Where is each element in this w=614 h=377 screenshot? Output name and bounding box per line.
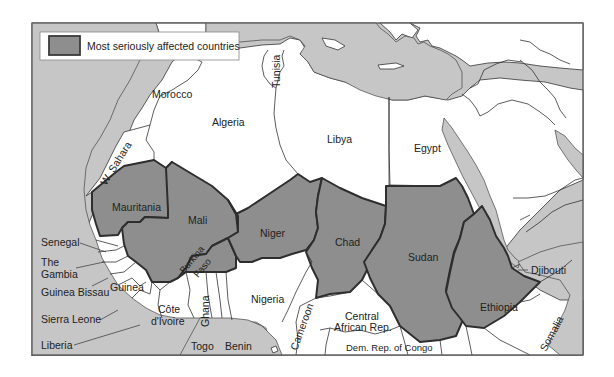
label-niger: Niger: [260, 227, 286, 239]
label-gambia: Gambia: [41, 268, 78, 280]
label-djibouti: Djibouti: [531, 264, 566, 276]
label-guinea: Guinea: [110, 281, 144, 293]
label-ethiopia: Ethiopia: [480, 301, 518, 313]
africa-drought-map: Most seriously affected countries Morocc…: [0, 0, 614, 377]
legend-swatch: [49, 36, 80, 55]
label-liberia: Liberia: [41, 339, 73, 351]
label-senegal: Senegal: [41, 236, 80, 248]
label-benin: Benin: [225, 340, 252, 352]
label-guinea-bissau: Guinea Bissau: [41, 286, 109, 298]
label-chad: Chad: [335, 236, 360, 248]
label-sudan: Sudan: [408, 251, 439, 263]
label-algeria: Algeria: [212, 116, 245, 128]
label-mauritania: Mauritania: [112, 201, 161, 213]
label-drc: Dem. Rep. of Congo: [346, 342, 433, 353]
label-egypt: Egypt: [414, 142, 441, 154]
legend: Most seriously affected countries: [40, 32, 240, 60]
label-divoire: d'Ivoire: [151, 315, 185, 327]
label-sierra-leone: Sierra Leone: [41, 313, 101, 325]
label-mali: Mali: [188, 214, 207, 226]
label-ghana: Ghana: [199, 295, 211, 327]
label-libya: Libya: [327, 133, 352, 145]
label-morocco: Morocco: [152, 88, 192, 100]
label-african-rep: African Rep.: [334, 321, 392, 333]
label-cote: Côte: [158, 303, 180, 315]
label-tunisia: Tunisia: [270, 54, 282, 88]
label-nigeria: Nigeria: [251, 293, 284, 305]
legend-label: Most seriously affected countries: [87, 40, 240, 52]
label-togo: Togo: [191, 340, 214, 352]
label-the: The: [41, 256, 59, 268]
